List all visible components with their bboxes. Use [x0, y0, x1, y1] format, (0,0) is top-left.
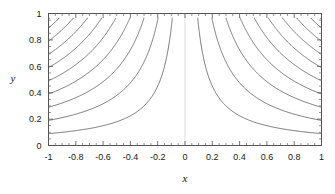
x-tick-label: 0.6: [261, 152, 274, 162]
x-tick-label: 1: [319, 152, 324, 162]
x-axis-title: x: [182, 172, 188, 184]
x-tick-label: 0.4: [233, 152, 246, 162]
x-tick-label: 0.2: [206, 152, 219, 162]
x-tick-label: -0.4: [123, 152, 139, 162]
x-tick-label: -1: [44, 152, 52, 162]
x-tick-label: -0.6: [95, 152, 111, 162]
y-tick-label: 0.2: [29, 114, 42, 124]
x-tick-label: -0.8: [68, 152, 84, 162]
y-tick-label: 1: [36, 9, 41, 19]
contour-plot-figure: -1-0.8-0.6-0.4-0.200.20.40.60.81 00.20.4…: [0, 0, 335, 194]
figure-background: [0, 0, 335, 194]
y-tick-label: 0.8: [29, 35, 42, 45]
x-tick-label: 0: [182, 152, 187, 162]
plot-canvas: -1-0.8-0.6-0.4-0.200.20.40.60.81 00.20.4…: [0, 0, 335, 194]
y-tick-label: 0.4: [29, 88, 42, 98]
x-tick-label: 0.8: [288, 152, 301, 162]
x-tick-label: -0.2: [150, 152, 166, 162]
y-tick-label: 0: [36, 141, 41, 151]
y-axis-title: y: [10, 72, 16, 84]
y-tick-label: 0.6: [29, 62, 42, 72]
